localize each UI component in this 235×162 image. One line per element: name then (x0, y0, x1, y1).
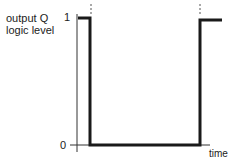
waveform-plot (0, 0, 235, 162)
output-q-waveform (78, 18, 222, 145)
